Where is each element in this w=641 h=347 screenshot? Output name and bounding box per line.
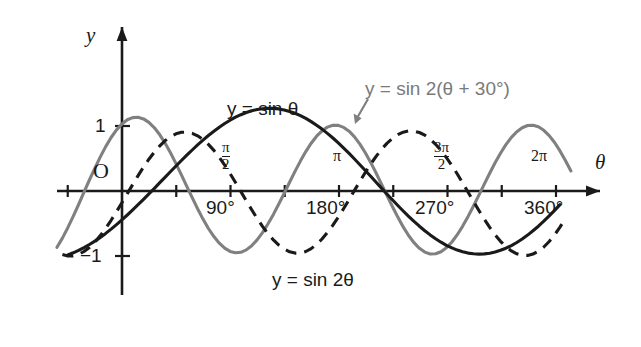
x-tick-label-2pi: 2π <box>531 148 547 164</box>
x-axis-arrowhead <box>586 186 600 197</box>
three-pi-over-2-numerator: 3π <box>434 140 449 156</box>
curve-label-sin-2theta: y = sin 2θ <box>272 270 354 289</box>
curve-label-sin-2theta-plus-30: y = sin 2(θ + 30°) <box>365 79 510 98</box>
y-axis-label: y <box>86 25 95 46</box>
curve-label-sin-theta: y = sin θ <box>227 99 298 118</box>
x-tick-label-3pi-over-2: 3π 2 <box>434 140 449 172</box>
trigonometric-graph-figure: y θ O 1 −1 90° 180° 270° 360° π 2 π 3π 2… <box>0 0 641 347</box>
y-tick-label-1: 1 <box>95 116 106 135</box>
pi-over-2-numerator: π <box>222 140 230 156</box>
curve-sin-2theta-plus-30 <box>57 117 571 254</box>
pi-over-2-denominator: 2 <box>222 156 230 173</box>
x-tick-label-pi: π <box>333 148 341 164</box>
x-tick-label-270deg: 270° <box>415 198 454 217</box>
x-tick-label-180deg: 180° <box>306 198 345 217</box>
y-tick-label-minus-1: −1 <box>80 246 102 265</box>
y-axis-arrowhead <box>117 27 128 41</box>
leader-arrow-icon <box>354 99 368 124</box>
axes-group <box>57 27 600 295</box>
three-pi-over-2-denominator: 2 <box>434 156 449 173</box>
x-tick-label-90deg: 90° <box>206 198 235 217</box>
x-tick-label-360deg: 360° <box>524 198 563 217</box>
curve-sin-2theta <box>62 131 565 256</box>
x-axis-label: θ <box>595 152 605 173</box>
x-tick-label-pi-over-2: π 2 <box>222 140 230 172</box>
origin-label: O <box>93 160 109 182</box>
